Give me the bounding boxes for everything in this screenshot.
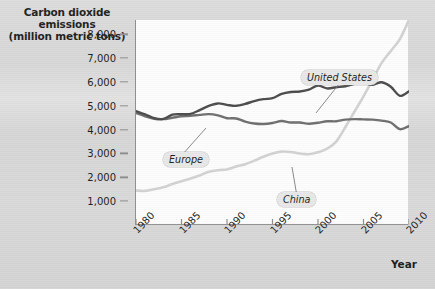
y-tick-label: 3,000	[87, 148, 116, 159]
y-tick-label: 7,000	[87, 53, 116, 64]
y-tick-label: 6,000	[87, 76, 116, 87]
chart-title-line-1: Carbon dioxide	[4, 6, 130, 18]
y-tick-label: 1,000	[87, 196, 116, 207]
y-tick-label: 4,000	[87, 124, 116, 135]
figure-container: Carbon dioxide emissions (million metric…	[0, 0, 435, 289]
y-tick-label: 8,000	[87, 29, 116, 40]
y-tick-mark	[120, 201, 128, 202]
y-axis-labels: 1,0002,0003,0004,0005,0006,0007,0008,000	[60, 20, 128, 225]
x-axis-labels: 1980198519901995200020052010	[135, 228, 425, 268]
y-tick-mark	[120, 129, 128, 130]
plot-area	[135, 20, 408, 225]
callout-europe: Europe	[163, 152, 209, 167]
leader-line	[316, 83, 340, 113]
y-tick-label: 5,000	[87, 100, 116, 111]
y-tick-mark	[120, 34, 128, 35]
x-axis-title: Year	[391, 258, 417, 270]
leader-line	[185, 128, 206, 152]
y-tick-mark	[120, 105, 128, 106]
y-tick-mark	[120, 57, 128, 58]
y-tick-label: 2,000	[87, 172, 116, 183]
leader-line	[292, 167, 296, 192]
y-tick-mark	[120, 153, 128, 154]
callout-china: China	[277, 192, 316, 207]
y-tick-mark	[120, 81, 128, 82]
y-tick-mark	[120, 177, 128, 178]
annotation-leader-lines	[136, 20, 409, 225]
callout-united-states: United States	[301, 70, 378, 85]
